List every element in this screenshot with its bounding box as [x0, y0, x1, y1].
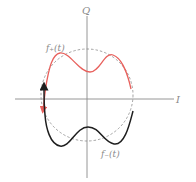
horizontal-axis-label: I: [175, 94, 181, 105]
f-plus-label: f₊(t): [45, 43, 65, 53]
vertical-axis-label: Q: [82, 5, 90, 16]
f-minus-label: f₋(t): [100, 149, 120, 159]
iq-diagram: Q I f₊(t) f₋(t): [0, 0, 196, 182]
curve-f-minus: [44, 86, 133, 146]
